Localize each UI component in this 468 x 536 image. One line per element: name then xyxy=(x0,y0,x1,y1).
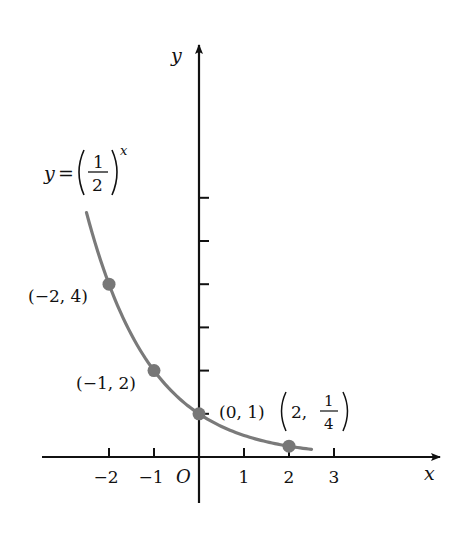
x-tick-label: 2 xyxy=(284,467,295,487)
point-label-2-denominator: 4 xyxy=(324,415,334,433)
left-paren xyxy=(79,150,84,195)
point-label-neg2: (−2, 4) xyxy=(28,286,88,306)
x-axis-ticks: −2−1123 xyxy=(93,448,339,487)
point-label-2: 2, 1 4 xyxy=(282,392,348,433)
right-paren xyxy=(112,150,117,195)
y-axis-ticks xyxy=(199,198,209,414)
data-point xyxy=(148,364,161,377)
x-tick-label: 1 xyxy=(239,467,250,487)
data-point xyxy=(103,278,116,291)
point-label-0: (0, 1) xyxy=(219,402,265,422)
function-base-numerator: 1 xyxy=(93,152,104,172)
function-label: y = 1 2 x xyxy=(43,143,128,195)
function-exponent: x xyxy=(120,143,128,158)
function-lhs: y xyxy=(43,162,55,184)
point-label-2-numerator: 1 xyxy=(324,392,334,410)
function-equals: = xyxy=(58,162,74,184)
exponential-graph: −2−1123 y x O y = 1 2 x (−2, 4) (−1, 2) … xyxy=(0,0,468,536)
function-base-denominator: 2 xyxy=(92,175,103,195)
data-point xyxy=(193,407,206,420)
left-paren xyxy=(282,392,287,431)
y-axis-label: y xyxy=(170,44,182,66)
origin-label: O xyxy=(176,466,191,487)
x-axis-label: x xyxy=(424,462,435,484)
point-label-neg1: (−1, 2) xyxy=(76,373,136,393)
data-point xyxy=(283,440,296,453)
x-tick-label: −1 xyxy=(138,467,163,487)
x-tick-label: −2 xyxy=(93,467,118,487)
point-label-2-prefix: 2, xyxy=(291,402,307,422)
x-tick-label: 3 xyxy=(329,467,340,487)
right-paren xyxy=(343,392,348,431)
